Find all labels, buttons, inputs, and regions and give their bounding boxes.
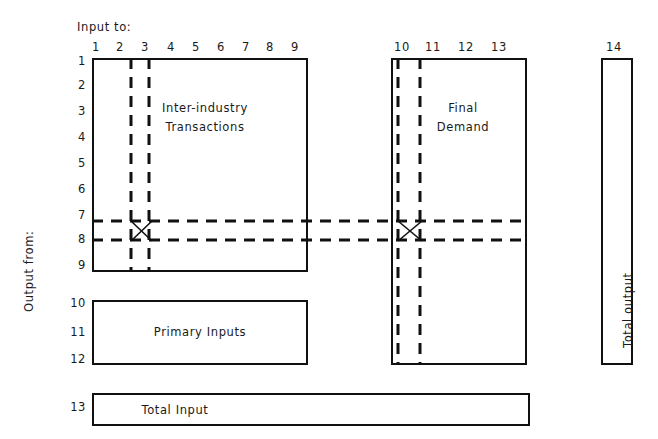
column-number-12: 12 [456, 40, 476, 54]
column-number-6: 6 [213, 40, 229, 54]
column-number-7: 7 [238, 40, 254, 54]
row-number-8: 8 [70, 232, 86, 246]
row-number-5: 5 [70, 156, 86, 170]
column-number-3: 3 [137, 40, 153, 54]
row-number-13: 13 [62, 400, 86, 414]
final-demand-label-line2: Demand [428, 119, 498, 136]
row-number-4: 4 [70, 130, 86, 144]
column-number-1: 1 [88, 40, 104, 54]
input-to-axis-title: Input to: [77, 20, 131, 34]
row-number-7: 7 [70, 208, 86, 222]
row-number-1: 1 [70, 54, 86, 68]
total-output-label: Total output [621, 272, 635, 348]
total-input-label: Total Input [110, 402, 240, 419]
row-number-11: 11 [62, 325, 86, 339]
column-number-2: 2 [112, 40, 128, 54]
column-number-10: 10 [392, 40, 412, 54]
inter-industry-label-line1: Inter-industry [140, 100, 270, 117]
inter-industry-label-line2: Transactions [140, 119, 270, 136]
column-number-14: 14 [604, 40, 624, 54]
final-demand-label-line1: Final [428, 100, 498, 117]
inter-industry-transactions-box[interactable] [92, 58, 308, 272]
row-number-12: 12 [62, 352, 86, 366]
row-number-10: 10 [62, 296, 86, 310]
primary-inputs-label: Primary Inputs [120, 324, 280, 341]
row-number-2: 2 [70, 78, 86, 92]
column-number-8: 8 [262, 40, 278, 54]
column-number-5: 5 [188, 40, 204, 54]
row-number-9: 9 [70, 258, 86, 272]
column-number-13: 13 [489, 40, 509, 54]
column-number-11: 11 [423, 40, 443, 54]
diagram-canvas: Input to: Output from: 1 2 3 4 5 6 7 8 9… [0, 0, 658, 439]
column-number-9: 9 [287, 40, 303, 54]
output-from-axis-title: Output from: [22, 231, 36, 312]
column-number-4: 4 [163, 40, 179, 54]
row-number-3: 3 [70, 104, 86, 118]
row-number-6: 6 [70, 182, 86, 196]
